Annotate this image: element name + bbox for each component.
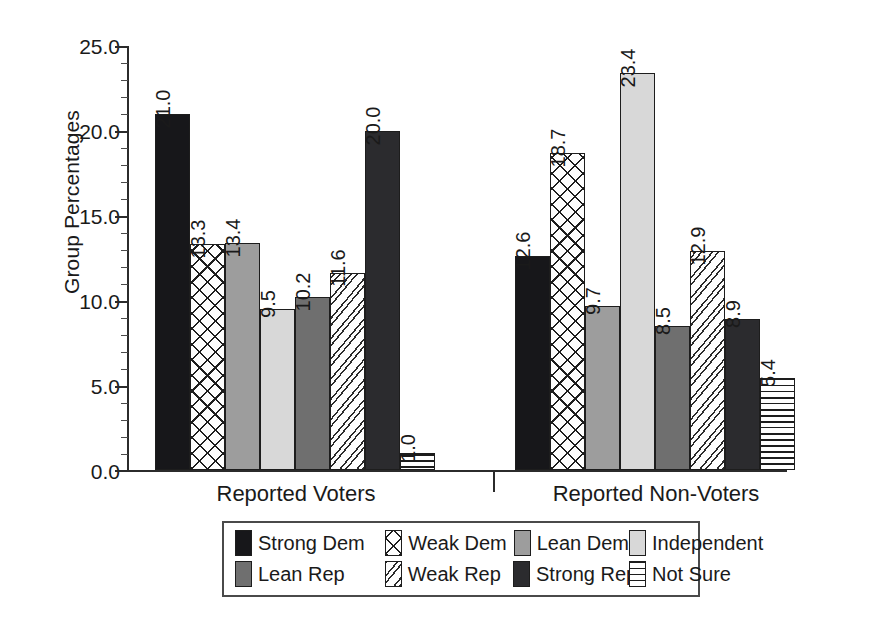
bar-lean-rep-voters[interactable]: 10.2 xyxy=(295,297,330,470)
legend-item-strong-rep[interactable]: Strong Rep xyxy=(513,561,629,587)
y-minor-tick xyxy=(121,182,128,183)
bar-not-sure-voters[interactable]: 1.0 xyxy=(400,453,435,470)
bar-rect: 12.6 xyxy=(515,256,550,470)
bar-independent-non-voters[interactable]: 23.4 xyxy=(620,73,655,470)
legend-label: Weak Dem xyxy=(408,533,507,553)
y-tick-label-5: 5.0 xyxy=(54,376,120,397)
bar-weak-dem-voters[interactable]: 13.3 xyxy=(190,244,225,470)
x-axis-line xyxy=(127,470,787,472)
y-minor-tick xyxy=(121,148,128,149)
y-minor-tick xyxy=(121,335,128,336)
bar-value-label: 23.4 xyxy=(618,49,638,88)
bar-value-label: 5.4 xyxy=(758,360,778,388)
y-minor-tick xyxy=(121,250,128,251)
bar-value-label: 1.0 xyxy=(398,434,418,462)
legend-label: Independent xyxy=(652,533,763,553)
y-major-tick-10 xyxy=(115,301,128,303)
legend-label: Lean Rep xyxy=(258,564,345,584)
bar-rect: 12.9 xyxy=(690,251,725,470)
bar-value-label: 12.9 xyxy=(688,227,708,266)
bar-strong-dem-non-voters[interactable]: 12.6 xyxy=(515,256,550,470)
y-minor-tick xyxy=(121,80,128,81)
bar-value-label: 10.2 xyxy=(293,273,313,312)
y-tick-label-10: 10.0 xyxy=(54,291,120,312)
bar-lean-dem-voters[interactable]: 13.4 xyxy=(225,243,260,470)
legend: Strong Dem Weak Dem Lean Dem Independent… xyxy=(222,521,700,597)
bar-value-label: 12.6 xyxy=(513,232,533,271)
legend-item-weak-dem[interactable]: Weak Dem xyxy=(385,530,513,556)
bar-rect: 9.5 xyxy=(260,309,295,470)
bar-value-label: 13.4 xyxy=(223,218,243,257)
y-axis-tick-labels: 25.0 20.0 15.0 10.0 5.0 0.0 xyxy=(48,0,120,642)
bar-rect: 11.6 xyxy=(330,273,365,470)
y-minor-tick xyxy=(121,267,128,268)
bar-rect: 20.0 xyxy=(365,131,400,470)
bar-rect: 5.4 xyxy=(760,378,795,470)
bar-weak-rep-voters[interactable]: 11.6 xyxy=(330,273,365,470)
x-axis-group-divider xyxy=(493,470,495,492)
bar-rect: 21.0 xyxy=(155,114,190,470)
legend-item-not-sure[interactable]: Not Sure xyxy=(629,561,689,587)
y-minor-tick xyxy=(121,63,128,64)
bar-value-label: 21.0 xyxy=(153,89,173,128)
y-minor-tick xyxy=(121,437,128,438)
bar-strong-rep-voters[interactable]: 20.0 xyxy=(365,131,400,470)
bar-weak-dem-non-voters[interactable]: 18.7 xyxy=(550,153,585,470)
bar-independent-voters[interactable]: 9.5 xyxy=(260,309,295,470)
legend-row: Lean Rep Weak Rep Strong Rep Not Sure xyxy=(235,561,689,587)
bar-strong-rep-non-voters[interactable]: 8.9 xyxy=(725,319,760,470)
legend-item-independent[interactable]: Independent xyxy=(629,530,689,556)
plot-area: 21.0 13.3 13.4 9.5 10.2 xyxy=(128,46,788,470)
bar-value-label: 13.3 xyxy=(188,220,208,259)
bar-value-label: 8.5 xyxy=(653,307,673,335)
legend-swatch-strong-rep-icon xyxy=(513,561,530,587)
y-minor-tick xyxy=(121,420,128,421)
legend-label: Strong Rep xyxy=(536,564,637,584)
bar-value-label: 11.6 xyxy=(328,250,348,287)
y-major-tick-5 xyxy=(115,386,128,388)
bar-value-label: 8.9 xyxy=(723,300,743,328)
legend-item-strong-dem[interactable]: Strong Dem xyxy=(235,530,385,556)
legend-swatch-weak-rep-icon xyxy=(385,561,402,587)
y-minor-tick xyxy=(121,97,128,98)
legend-label: Lean Dem xyxy=(537,533,629,553)
bar-value-label: 18.7 xyxy=(548,128,568,167)
bar-lean-rep-non-voters[interactable]: 8.5 xyxy=(655,326,690,470)
y-minor-tick xyxy=(121,199,128,200)
bar-not-sure-non-voters[interactable]: 5.4 xyxy=(760,378,795,470)
y-tick-label-15: 15.0 xyxy=(54,206,120,227)
y-major-tick-0 xyxy=(115,470,128,472)
bar-rect: 23.4 xyxy=(620,73,655,470)
legend-swatch-lean-rep-icon xyxy=(235,561,252,587)
y-minor-tick xyxy=(121,114,128,115)
legend-swatch-not-sure-icon xyxy=(629,561,646,587)
y-major-tick-15 xyxy=(115,216,128,218)
bar-weak-rep-non-voters[interactable]: 12.9 xyxy=(690,251,725,470)
legend-label: Strong Dem xyxy=(258,533,365,553)
x-group-label-reported-non-voters: Reported Non-Voters xyxy=(515,481,797,507)
bar-value-label: 9.5 xyxy=(258,290,278,318)
legend-item-weak-rep[interactable]: Weak Rep xyxy=(385,561,513,587)
y-minor-tick xyxy=(121,369,128,370)
y-major-tick-25 xyxy=(115,46,128,48)
legend-swatch-strong-dem-icon xyxy=(235,530,252,556)
bar-rect: 1.0 xyxy=(400,453,435,470)
legend-row: Strong Dem Weak Dem Lean Dem Independent xyxy=(235,530,689,556)
legend-swatch-weak-dem-icon xyxy=(385,530,402,556)
bar-value-label: 20.0 xyxy=(363,106,383,145)
bar-rect: 9.7 xyxy=(585,306,620,471)
legend-swatch-lean-dem-icon xyxy=(514,530,531,556)
y-minor-tick xyxy=(121,165,128,166)
legend-swatch-independent-icon xyxy=(629,530,646,556)
bar-strong-dem-voters[interactable]: 21.0 xyxy=(155,114,190,470)
y-minor-tick xyxy=(121,318,128,319)
bar-group-reported-voters: 21.0 13.3 13.4 9.5 10.2 xyxy=(155,46,437,470)
x-group-label-reported-voters: Reported Voters xyxy=(155,481,437,507)
legend-item-lean-rep[interactable]: Lean Rep xyxy=(235,561,385,587)
bar-lean-dem-non-voters[interactable]: 9.7 xyxy=(585,306,620,471)
legend-item-lean-dem[interactable]: Lean Dem xyxy=(514,530,629,556)
legend-label: Not Sure xyxy=(652,564,731,584)
bar-rect: 13.3 xyxy=(190,244,225,470)
bar-rect: 8.9 xyxy=(725,319,760,470)
y-tick-label-25: 25.0 xyxy=(54,36,120,57)
